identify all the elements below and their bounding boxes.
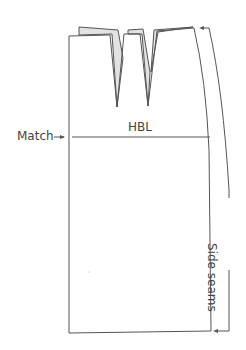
stray-dot (89, 272, 90, 273)
folded-waist-3 (151, 27, 193, 72)
top-arrowhead-icon (199, 26, 204, 30)
match-label: Match (17, 129, 54, 143)
side-seam-bracket-top (201, 28, 229, 198)
pattern-outline (69, 28, 211, 333)
folded-waist (79, 27, 123, 107)
hbl-label: HBL (128, 120, 152, 134)
match-arrowhead-icon (60, 135, 65, 139)
bottom-arrowhead-icon (213, 329, 218, 333)
side-seams-label: Side seams (205, 243, 219, 312)
